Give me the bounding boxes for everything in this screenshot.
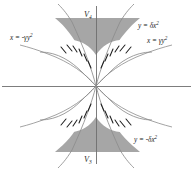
curve-label-y-neg-delta-x2: y = -δx2 — [133, 134, 158, 144]
curve-label-x-neg-gamma-y2: x = -γy2 — [9, 32, 33, 42]
region-label-v3: V3 — [84, 155, 92, 165]
region-label-v4: V4 — [84, 10, 92, 20]
curve-label-x-gamma-y2: x = γy2 — [146, 35, 168, 45]
curve-label-y-delta-x2: y = δx2 — [137, 20, 159, 30]
figure-canvas: V4 V3 x = -γy2 y = δx2 x = γy2 y = -δx2 — [0, 0, 193, 169]
